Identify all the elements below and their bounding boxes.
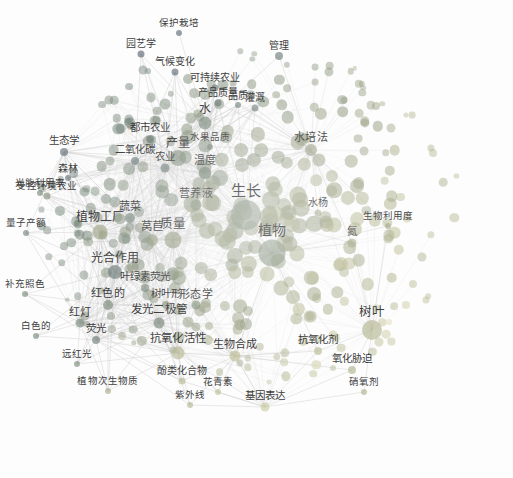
node-label: 产品质量 xyxy=(198,88,239,98)
node-label: 抗氧化活性 xyxy=(150,334,206,346)
node-label: 白色的 xyxy=(21,322,52,332)
node-label: 生物利用度 xyxy=(363,212,414,222)
node-label: 光能利用率 xyxy=(15,179,66,189)
node-label: 红灯 xyxy=(69,306,91,317)
node-label: 花青素 xyxy=(203,378,234,388)
node-label: 生物合成 xyxy=(213,338,258,349)
node-label: 保护栽培 xyxy=(159,19,200,29)
node-label: 森林 xyxy=(58,164,78,174)
node-label: 产量 xyxy=(166,137,190,149)
node-label: 抗氧化剂 xyxy=(298,335,339,346)
node-label: 植物工厂 xyxy=(76,211,125,223)
network-map-figure: 生长植物光合作用质量产量树叶植物工厂水温度营养液水培法抗氧化活性生物合成基因表达… xyxy=(0,0,513,478)
node-label: 光合作用 xyxy=(91,252,140,264)
node-label: 气候变化 xyxy=(155,57,196,67)
node-label: 硝氧剂 xyxy=(349,378,380,388)
node-label: 形态学 xyxy=(179,288,213,299)
node-label: 生态学 xyxy=(49,136,80,147)
node-label: 酚类化合物 xyxy=(157,366,208,376)
node-label: 植物次生物质 xyxy=(77,377,138,387)
node-label: 发光二极管 xyxy=(131,305,187,317)
node-label: 温度 xyxy=(194,155,216,166)
network-canvas: 生长植物光合作用质量产量树叶植物工厂水温度营养液水培法抗氧化活性生物合成基因表达… xyxy=(0,0,513,430)
node-label: 生长 xyxy=(231,183,261,198)
node-label: 营养液 xyxy=(179,187,213,198)
node-label: 氮 xyxy=(347,227,357,238)
node-label: 二氧化碳 xyxy=(115,145,156,156)
node-label: 农业 xyxy=(155,152,175,163)
node-label: 灌溉 xyxy=(245,93,265,103)
node-label: 水培法 xyxy=(294,132,328,143)
node-label: 水杨 xyxy=(308,198,328,208)
node-label: 莴苣 xyxy=(141,221,163,233)
node-label: 树叶形 xyxy=(151,289,182,300)
node-label: 远红光 xyxy=(62,350,93,360)
node-label: 水 xyxy=(199,103,211,115)
label-layer: 生长植物光合作用质量产量树叶植物工厂水温度营养液水培法抗氧化活性生物合成基因表达… xyxy=(0,0,513,430)
node-label: 氧化胁迫 xyxy=(332,354,373,365)
node-label: 紫外线 xyxy=(175,391,206,401)
node-label: 质量 xyxy=(160,218,186,231)
node-label: 基因表达 xyxy=(245,391,286,402)
node-label: 水果品质 xyxy=(190,133,231,143)
node-label: 管理 xyxy=(269,41,289,51)
node-label: 红色的 xyxy=(91,288,125,299)
node-label: 可持续农业 xyxy=(190,73,241,83)
node-label: 园艺学 xyxy=(126,39,157,49)
node-label: 叶绿素荧光 xyxy=(120,272,171,283)
node-label: 蔬菜 xyxy=(119,201,141,212)
node-label: 都市农业 xyxy=(130,123,171,134)
node-label: 品质 xyxy=(228,91,248,101)
node-label: 荧光 xyxy=(86,324,106,335)
node-label: 受控环境农业 xyxy=(16,182,77,192)
colorbar-legend: 2016 2017 2018 2019 （年份） xyxy=(0,430,513,478)
node-label: 补充照色 xyxy=(5,280,46,290)
node-label: 植物 xyxy=(258,224,286,238)
node-label: 量子产额 xyxy=(6,219,47,229)
node-label: 树叶 xyxy=(359,306,385,319)
